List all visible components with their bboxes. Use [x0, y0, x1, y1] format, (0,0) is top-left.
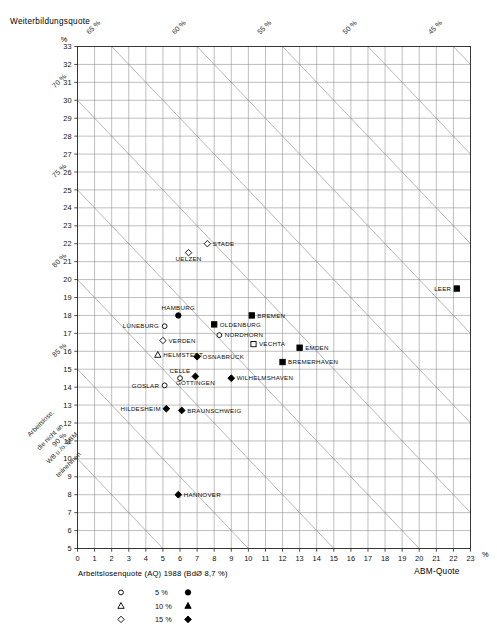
scatter-chart-canvas: 01234567891011121314151617181920212223 5… — [0, 0, 497, 626]
marker-square-filled — [280, 359, 285, 364]
marker-circle-open — [217, 333, 222, 338]
data-point-label: GOSLAR — [132, 382, 160, 389]
marker-circle-open — [162, 324, 167, 329]
y-tick-label: 27 — [63, 150, 71, 159]
y-tick-label: 7 — [67, 508, 71, 517]
x-tick-label: 5 — [161, 554, 165, 563]
data-point-label: HANNOVER — [184, 491, 221, 498]
chart-figure: 01234567891011121314151617181920212223 5… — [0, 0, 497, 626]
y-tick-label: 13 — [63, 401, 71, 410]
data-point-label: HAMBURG — [162, 304, 195, 311]
x-tick-label: 13 — [296, 554, 304, 563]
data-point-bremerhaven: BREMERHAVEN — [280, 358, 338, 365]
marker-square-filled — [211, 322, 216, 327]
x-tick-label: 11 — [262, 554, 270, 563]
x-tick-label: 0 — [75, 554, 79, 563]
y-tick-label: 12 — [63, 419, 71, 428]
y-axis-unit-label: % — [61, 35, 68, 44]
x-tick-label: 23 — [466, 554, 474, 563]
data-point-label: CELLE — [170, 367, 191, 374]
y-tick-label: 14 — [63, 383, 71, 392]
data-point-wilhelmshaven: WILHELMSHAVEN — [228, 374, 293, 381]
y-tick-label: 9 — [67, 472, 71, 481]
x-tick-label: 1 — [93, 554, 97, 563]
marker-square-filled — [297, 345, 302, 350]
x-tick-label: 10 — [244, 554, 252, 563]
y-tick-label: 5 — [67, 544, 71, 553]
x-tick-label: 15 — [330, 554, 338, 563]
legend-open-circle-icon — [119, 590, 124, 595]
legend-title: Arbeitslosenquote (AQ) 1988 (BdØ 8,7 %) — [78, 569, 228, 578]
data-point-label: OSNABRÜCK — [203, 353, 245, 360]
data-point-nordhorn: NORDHORN — [217, 331, 263, 338]
x-tick-label: 3 — [127, 554, 131, 563]
x-tick-label: 4 — [144, 554, 148, 563]
y-tick-label: 24 — [63, 203, 71, 212]
data-point-leer: LEER — [434, 285, 459, 292]
y-tick-label: 19 — [63, 293, 71, 302]
legend-label: 15 % — [155, 615, 172, 624]
data-point-label: VECHTA — [259, 340, 286, 347]
data-point-label: EMDEN — [305, 344, 329, 351]
x-tick-label: 16 — [347, 554, 355, 563]
x-tick-label: 19 — [398, 554, 406, 563]
data-point-label: BREMEN — [257, 312, 285, 319]
y-tick-label: 6 — [67, 526, 71, 535]
data-point-oldenburg: OLDENBURG — [211, 321, 261, 328]
marker-circle-filled — [176, 313, 181, 318]
x-tick-label: 21 — [432, 554, 440, 563]
data-point-label: WILHELMSHAVEN — [237, 374, 293, 381]
x-tick-label: 17 — [364, 554, 372, 563]
data-point-label: LEER — [434, 285, 451, 292]
x-tick-label: 12 — [278, 554, 286, 563]
data-point-label: BREMERHAVEN — [288, 358, 338, 365]
x-tick-label: 9 — [229, 554, 233, 563]
data-point-braunschweig: BRAUNSCHWEIG — [178, 407, 241, 414]
x-tick-label: 18 — [381, 554, 389, 563]
x-tick-label: 6 — [178, 554, 182, 563]
data-point-label: GÖTTINGEN — [176, 379, 215, 386]
y-tick-label: 17 — [63, 329, 71, 338]
y-tick-label: 28 — [63, 132, 71, 141]
legend-label: 10 % — [155, 602, 172, 611]
y-tick-label: 18 — [63, 311, 71, 320]
x-tick-label: 2 — [110, 554, 114, 563]
x-tick-label: 8 — [212, 554, 216, 563]
marker-circle-open — [162, 383, 167, 388]
data-point-label: HILDESHEIM — [121, 405, 161, 412]
y-tick-label: 23 — [63, 221, 71, 230]
x-axis-title: ABM-Quote — [414, 567, 460, 576]
data-point-vechta: VECHTA — [251, 340, 286, 347]
data-point-label: STADE — [213, 240, 234, 247]
marker-square-open — [251, 342, 256, 347]
y-tick-label: 15 — [63, 365, 71, 374]
y-tick-label: 32 — [63, 60, 71, 69]
y-tick-label: 30 — [63, 96, 71, 105]
data-point-label: OLDENBURG — [220, 321, 261, 328]
y-tick-label: 20 — [63, 275, 71, 284]
x-tick-label: 14 — [313, 554, 321, 563]
data-point-bremen: BREMEN — [249, 312, 285, 319]
x-tick-label: 7 — [195, 554, 199, 563]
y-tick-label: 8 — [67, 490, 71, 499]
data-point-label: UELZEN — [176, 255, 202, 262]
x-tick-label: 22 — [449, 554, 457, 563]
y-tick-label: 22 — [63, 239, 71, 248]
data-point-label: BRAUNSCHWEIG — [187, 407, 241, 414]
data-point-label: VERDEN — [168, 337, 195, 344]
y-axis-title: Weiterbildungsquote — [10, 17, 90, 26]
y-tick-label: 25 — [63, 186, 71, 195]
y-tick-label: 29 — [63, 114, 71, 123]
marker-square-filled — [249, 313, 254, 318]
data-point-label: NORDHORN — [225, 331, 263, 338]
data-point-emden: EMDEN — [297, 344, 329, 351]
x-axis-unit-label: % — [482, 550, 489, 559]
data-point-label: LÜNEBURG — [123, 322, 159, 329]
x-tick-label: 20 — [415, 554, 423, 563]
legend-label: 5 % — [155, 588, 168, 597]
marker-square-filled — [454, 286, 459, 291]
legend-filled-circle-icon — [185, 590, 190, 595]
